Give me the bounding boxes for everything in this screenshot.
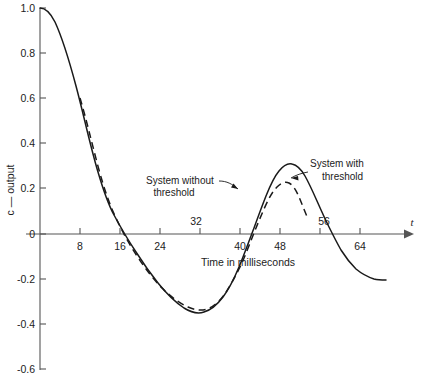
y-tick-label: 1.0 xyxy=(20,2,35,14)
x-tick-label: 8 xyxy=(77,240,83,252)
y-tick-label: 0.2 xyxy=(20,182,35,194)
annotation-arrow-icon xyxy=(291,176,299,181)
x-axis-variable: t xyxy=(410,216,414,228)
axis-group xyxy=(26,8,414,370)
annotation-with-threshold-line1: System with xyxy=(310,158,364,169)
y-tick-label: 0.6 xyxy=(20,92,35,104)
y-tick-label: -0.4 xyxy=(17,318,35,330)
y-axis-title: c — output xyxy=(4,165,16,216)
figure-container: 1.0 0.8 0.6 0.4 0.2 0 -0.2 -0.4 -0.6 8 1… xyxy=(0,0,427,376)
annotation-without-threshold-line1: System without xyxy=(146,175,214,186)
x-tick-label: 40 xyxy=(234,240,246,252)
x-axis-arrow-icon xyxy=(404,230,414,239)
y-tick-label: 0.4 xyxy=(20,137,35,149)
y-tick-label: 0 xyxy=(29,228,35,240)
annotation-without-threshold-line2: threshold xyxy=(153,187,194,198)
annotation-with-threshold-line2: threshold xyxy=(322,171,363,182)
chart-plot: 1.0 0.8 0.6 0.4 0.2 0 -0.2 -0.4 -0.6 8 1… xyxy=(0,0,427,376)
x-tick-label: 48 xyxy=(274,240,286,252)
series-line-without-threshold xyxy=(80,98,308,310)
y-tick-labels: 1.0 0.8 0.6 0.4 0.2 0 -0.2 -0.4 -0.6 xyxy=(17,2,35,375)
x-tick-label: 16 xyxy=(114,240,126,252)
x-tick-label: 64 xyxy=(354,240,366,252)
y-tick-label: -0.6 xyxy=(17,363,35,375)
x-tick-label: 32 xyxy=(190,215,202,227)
x-axis-title: Time in milliseconds xyxy=(201,256,295,268)
annotation-with-threshold: System with threshold xyxy=(291,158,364,182)
x-tick-label: 24 xyxy=(154,240,166,252)
y-tick-label: 0.8 xyxy=(20,47,35,59)
annotation-without-threshold: System without threshold xyxy=(146,175,238,198)
y-tick-label: -0.2 xyxy=(17,273,35,285)
y-tick-marks xyxy=(40,8,46,369)
